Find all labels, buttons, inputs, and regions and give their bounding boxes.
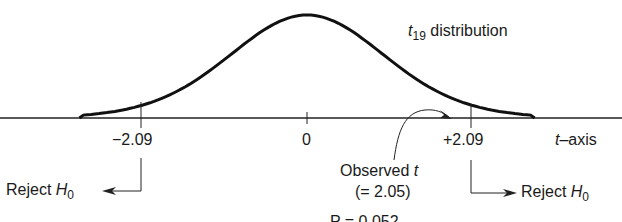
observed-t-symbol: t [414,162,418,179]
tick-label-left: −2.09 [112,132,152,148]
title-subscript: 19 [412,29,425,43]
h-subscript: 0 [67,188,74,202]
reject-right-label: Reject H0 [521,184,589,200]
observed-t-pointer [394,110,449,160]
axis-label: t–axis [555,132,597,148]
tick-label-right: +2.09 [443,132,483,148]
h-symbol: H [571,183,583,200]
h-symbol: H [56,181,68,198]
observed-t-label: Observed t [340,163,418,179]
tick-label-zero: 0 [302,132,311,148]
axis-label-rest: –axis [559,131,596,148]
title-rest: distribution [426,22,508,39]
cut-off-text: P = 0.052 [330,214,399,222]
reject-text: Reject [521,183,571,200]
observed-text: Observed [340,162,414,179]
reject-text: Reject [6,181,56,198]
reject-left-label: Reject H0 [6,182,74,198]
h-subscript: 0 [582,190,589,204]
observed-t-value: (= 2.05) [355,184,411,200]
distribution-title: t19 distribution [408,23,508,39]
